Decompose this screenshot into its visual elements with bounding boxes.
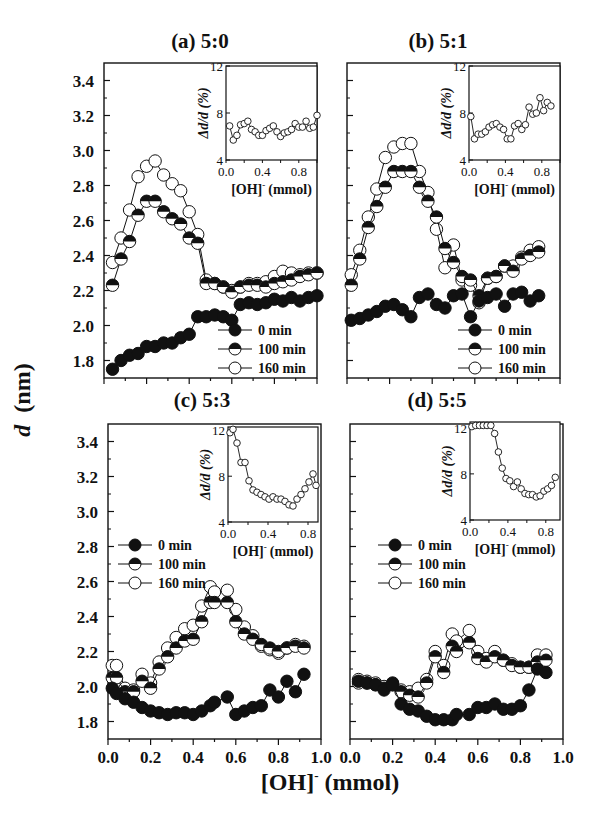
panel-d-title: (d) 5:5 — [408, 388, 467, 412]
y-tick-label: 2.0 — [73, 317, 94, 336]
inset-chart: 48120.00.40.8[OH]-(mmol)Δd/d (%) — [440, 421, 560, 558]
y-tick-label: 2.8 — [73, 177, 94, 196]
panel-c-title: (c) 5:3 — [174, 388, 231, 412]
legend: 0 min100 min160 min — [118, 538, 206, 591]
panel-b-title: (b) 5:1 — [409, 29, 468, 53]
inset-x-tick-label: 0.0 — [462, 524, 478, 539]
x-tick-label: 0.8 — [510, 748, 531, 767]
inset-x-tick-label: 0.8 — [291, 164, 307, 179]
x-tick-label: 0.4 — [183, 748, 205, 767]
inset-y-tick-label: 8 — [460, 106, 467, 121]
inset-x-tick-label: 0.4 — [497, 164, 514, 179]
y-axis-label-symbol: d — [9, 424, 35, 437]
inset-chart: 48120.00.40.8[OH]-(mmol)Δd/d (%) — [196, 59, 320, 198]
inset-chart: 48120.00.40.8[OH]-(mmol)Δd/d (%) — [198, 423, 319, 560]
legend: 0 min100 min160 min — [458, 323, 546, 376]
x-tick-label: 0.0 — [339, 748, 360, 767]
y-tick-label: 3.0 — [77, 503, 98, 522]
y-tick-label: 2.4 — [77, 608, 99, 627]
inset-y-axis-label: Δd/d (%) — [439, 87, 455, 139]
y-tick-label: 2.0 — [77, 678, 98, 697]
y-tick-label: 3.4 — [77, 433, 99, 452]
inset-x-axis-label: [OH]-(mmol) — [233, 542, 314, 560]
panel-c: 1.82.02.22.42.62.83.03.23.40.00.20.40.60… — [77, 423, 332, 767]
inset-y-tick-label: 12 — [212, 423, 225, 438]
inset-y-tick-label: 8 — [217, 106, 224, 121]
figure-canvas: (a) 5:0 (b) 5:1 (c) 5:3 (d) 5:5 d (nm) [… — [0, 0, 598, 833]
panels: 1.82.02.22.42.62.83.03.23.40 min100 min1… — [73, 59, 574, 767]
legend-label: 0 min — [258, 323, 292, 338]
x-tick-label: 0.2 — [140, 748, 161, 767]
legend-label: 100 min — [418, 557, 466, 572]
y-tick-label: 3.2 — [73, 107, 94, 126]
svg-text:d (nm): d (nm) — [9, 363, 35, 436]
x-tick-label: 0.0 — [97, 748, 118, 767]
legend-label: 0 min — [158, 538, 192, 553]
series-100-min — [106, 195, 323, 298]
legend-label: 0 min — [498, 323, 532, 338]
inset-x-axis-label: [OH]-(mmol) — [231, 180, 312, 198]
y-tick-label: 2.6 — [77, 573, 98, 592]
inset-x-tick-label: 0.4 — [260, 526, 277, 541]
legend-label: 160 min — [418, 576, 466, 591]
y-tick-label: 2.2 — [73, 282, 94, 301]
inset-chart: 48120.00.40.8[OH]-(mmol)Δd/d (%) — [439, 59, 560, 198]
inset-y-axis-label: Δd/d (%) — [198, 449, 214, 501]
x-tick-label: 0.6 — [467, 748, 488, 767]
x-tick-label: 0.2 — [382, 748, 403, 767]
x-tick-label: 0.6 — [225, 748, 246, 767]
inset-x-tick-label: 0.0 — [218, 164, 234, 179]
y-tick-label: 3.2 — [77, 468, 98, 487]
panel-d: 0.00.20.40.60.81.00 min100 min160 min481… — [339, 421, 573, 767]
inset-x-axis-label: [OH]-(mmol) — [475, 540, 556, 558]
inset-y-tick-label: 8 — [461, 467, 468, 482]
x-tick-label: 1.0 — [552, 748, 573, 767]
legend: 0 min100 min160 min — [218, 323, 306, 376]
x-tick-label: 0.4 — [425, 748, 447, 767]
x-axis-label-main: [OH] — [261, 769, 314, 795]
y-tick-label: 2.8 — [77, 538, 98, 557]
legend-label: 160 min — [258, 361, 306, 376]
y-tick-label: 1.8 — [73, 352, 94, 371]
inset-x-tick-label: 0.8 — [300, 526, 316, 541]
legend-label: 160 min — [158, 576, 206, 591]
panel-a-title: (a) 5:0 — [171, 29, 229, 53]
inset-y-axis-label: Δd/d (%) — [196, 87, 212, 139]
inset-y-tick-label: 12 — [453, 59, 466, 74]
legend-label: 100 min — [158, 557, 206, 572]
y-tick-label: 3.0 — [73, 142, 94, 161]
y-tick-label: 3.4 — [73, 72, 95, 91]
inset-x-axis-label: [OH]-(mmol) — [474, 180, 555, 198]
y-tick-label: 2.2 — [77, 643, 98, 662]
legend: 0 min100 min160 min — [378, 538, 466, 591]
legend-label: 100 min — [258, 342, 306, 357]
legend-label: 0 min — [418, 538, 452, 553]
y-axis-label: d (nm) — [9, 363, 35, 436]
inset-x-tick-label: 0.8 — [538, 524, 554, 539]
inset-x-tick-label: 0.4 — [500, 524, 517, 539]
inset-y-axis-label: Δd/d (%) — [440, 445, 456, 497]
inset-x-tick-label: 0.4 — [254, 164, 271, 179]
y-tick-label: 2.4 — [73, 247, 95, 266]
inset-y-tick-label: 12 — [210, 59, 223, 74]
x-axis-label-unit: (mmol) — [325, 769, 400, 795]
legend-label: 100 min — [498, 342, 546, 357]
legend-label: 160 min — [498, 361, 546, 376]
inset-x-tick-label: 0.0 — [220, 526, 236, 541]
x-tick-label: 1.0 — [310, 748, 331, 767]
series-0-min — [345, 286, 545, 326]
panel-a: 1.82.02.22.42.62.83.03.23.40 min100 min1… — [73, 59, 323, 384]
inset-y-tick-label: 8 — [219, 469, 226, 484]
y-tick-label: 1.8 — [77, 713, 98, 732]
y-tick-label: 2.6 — [73, 212, 94, 231]
series-100-min — [106, 596, 310, 698]
x-axis-label-sup: - — [314, 768, 318, 783]
inset-x-tick-label: 0.8 — [534, 164, 550, 179]
series-160-min — [345, 137, 545, 309]
inset-y-tick-label: 12 — [454, 421, 467, 436]
panel-b: 0 min100 min160 min48120.00.40.8[OH]-(mm… — [345, 59, 560, 384]
x-tick-label: 0.8 — [268, 748, 289, 767]
x-axis-label: [OH]-(mmol) — [261, 768, 399, 795]
inset-x-tick-label: 0.0 — [461, 164, 477, 179]
y-axis-label-unit: (nm) — [9, 363, 35, 412]
